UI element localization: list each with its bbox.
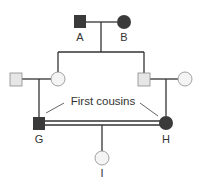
label-b: B xyxy=(120,31,127,43)
pedigree-svg: A B First cousins G H I xyxy=(0,0,202,185)
pedigree-diagram: A B First cousins G H I xyxy=(0,0,202,185)
label-i: I xyxy=(100,167,103,179)
individual-h-affected-female xyxy=(159,116,173,130)
label-g: G xyxy=(35,133,44,145)
individual-unaffected-male-right xyxy=(138,73,150,86)
label-a: A xyxy=(76,31,84,43)
individual-a-affected-male xyxy=(74,15,86,28)
pointer-line-right xyxy=(140,103,158,116)
individual-unaffected-male-left xyxy=(10,73,22,86)
first-cousins-label: First cousins xyxy=(71,95,136,107)
individual-unaffected-female-right xyxy=(178,72,192,86)
label-h: H xyxy=(162,133,170,145)
individual-g-affected-male xyxy=(33,117,45,130)
individual-b-affected-female xyxy=(117,15,131,29)
individual-unaffected-female-left xyxy=(51,72,65,86)
individual-i-unaffected-female xyxy=(95,151,109,165)
pointer-line-left xyxy=(46,103,64,113)
